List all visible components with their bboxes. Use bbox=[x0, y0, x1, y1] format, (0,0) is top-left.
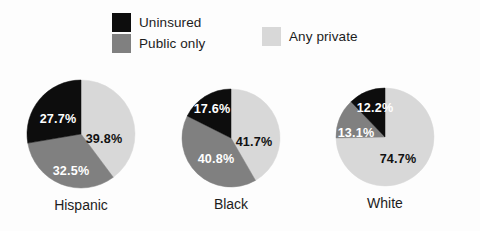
pie-caption-black: Black bbox=[176, 197, 286, 211]
legend-label-any-private: Any private bbox=[289, 30, 358, 44]
pie-chart-white: 74.7%13.1%12.2%White bbox=[330, 82, 440, 214]
pie-svg-black: 41.7%40.8%17.6% bbox=[176, 83, 286, 193]
pie-chart-figure: Uninsured Public only Any private 39.8%3… bbox=[0, 0, 480, 231]
legend-item-uninsured: Uninsured bbox=[112, 13, 201, 32]
legend-swatch-uninsured bbox=[112, 13, 131, 32]
slice-value-label: 41.7% bbox=[236, 135, 273, 149]
pie-svg-hispanic: 39.8%32.5%27.7% bbox=[21, 74, 141, 194]
slice-value-label: 12.2% bbox=[357, 101, 394, 115]
legend-swatch-public-only bbox=[112, 34, 131, 53]
legend-label-public-only: Public only bbox=[139, 37, 205, 51]
slice-value-label: 32.5% bbox=[53, 164, 90, 178]
slice-value-label: 17.6% bbox=[194, 102, 231, 116]
legend-swatch-any-private bbox=[262, 27, 281, 46]
slice-value-label: 13.1% bbox=[338, 126, 375, 140]
slice-value-label: 39.8% bbox=[86, 132, 123, 146]
pie-caption-white: White bbox=[330, 196, 440, 210]
legend-label-uninsured: Uninsured bbox=[139, 16, 201, 30]
slice-value-label: 40.8% bbox=[198, 152, 235, 166]
pie-chart-hispanic: 39.8%32.5%27.7%Hispanic bbox=[21, 74, 141, 216]
slice-value-label: 74.7% bbox=[380, 152, 417, 166]
legend-item-public-only: Public only bbox=[112, 34, 205, 53]
pie-caption-hispanic: Hispanic bbox=[21, 198, 141, 212]
pie-svg-white: 74.7%13.1%12.2% bbox=[330, 82, 440, 192]
pie-chart-black: 41.7%40.8%17.6%Black bbox=[176, 83, 286, 215]
legend-item-any-private: Any private bbox=[262, 27, 358, 46]
slice-value-label: 27.7% bbox=[40, 112, 77, 126]
chart-legend: Uninsured Public only Any private bbox=[0, 0, 480, 70]
